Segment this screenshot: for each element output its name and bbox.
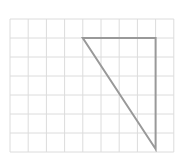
grid-diagram (0, 0, 184, 161)
